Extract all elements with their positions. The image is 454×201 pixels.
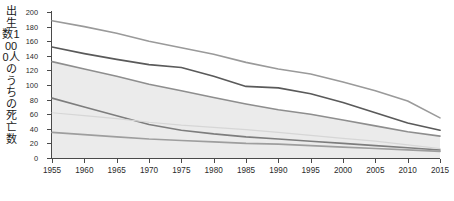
plot-area — [0, 0, 446, 201]
infant-mortality-line-chart: 出生数1000人のうちの死亡数 020406080100120140160180… — [0, 0, 446, 201]
